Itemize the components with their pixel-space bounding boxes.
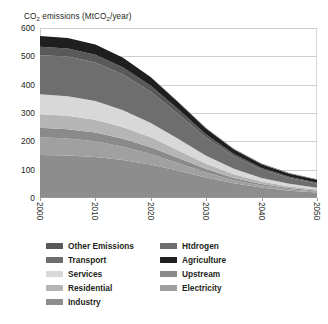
legend-item[interactable]: Residential xyxy=(46,282,134,294)
chart-legend: Other EmissionsTransportServicesResident… xyxy=(46,240,286,308)
x-axis-tick-label: 2030 xyxy=(201,202,210,220)
legend-item[interactable]: Electricity xyxy=(160,282,226,294)
legend-item[interactable]: Transport xyxy=(46,254,134,266)
x-axis-tick-mark xyxy=(262,198,263,201)
legend-label: Electricity xyxy=(182,284,222,292)
legend-swatch-icon xyxy=(46,243,63,249)
legend-swatch-icon xyxy=(160,271,177,277)
x-axis-tick-mark xyxy=(317,198,318,201)
legend-label: Other Emissions xyxy=(68,242,134,250)
legend-item[interactable]: Industry xyxy=(46,296,134,308)
chart-title-text: CO xyxy=(24,12,36,21)
legend-swatch-icon xyxy=(46,299,63,305)
legend-label: Htdrogen xyxy=(182,242,219,250)
legend-swatch-icon xyxy=(160,257,177,263)
y-axis-tick-label: 200 xyxy=(21,136,35,146)
x-axis-tick-label: 2010 xyxy=(90,202,99,220)
legend-item[interactable]: Services xyxy=(46,268,134,280)
chart-title-sub-2: 2 xyxy=(107,16,110,22)
chart-title: CO2 emissions (MtCO2/year) xyxy=(24,12,132,21)
y-axis-tick-label: 500 xyxy=(21,51,35,61)
legend-item[interactable]: Agriculture xyxy=(160,254,226,266)
x-axis-tick-mark xyxy=(206,198,207,201)
x-axis-tick-mark xyxy=(40,198,41,201)
x-axis-line xyxy=(40,197,317,198)
legend-item[interactable]: Htdrogen xyxy=(160,240,226,252)
legend-swatch-icon xyxy=(46,285,63,291)
legend-label: Agriculture xyxy=(182,256,226,264)
legend-item[interactable]: Other Emissions xyxy=(46,240,134,252)
legend-item[interactable]: Upstream xyxy=(160,268,226,280)
legend-label: Services xyxy=(68,270,102,278)
area-series-svg xyxy=(40,28,317,198)
legend-label: Transport xyxy=(68,256,106,264)
x-axis-tick-label: 2050 xyxy=(312,202,321,220)
chart-title-mid: emissions (MtCO xyxy=(40,12,107,21)
x-axis-tick-mark xyxy=(95,198,96,201)
legend-column-left: Other EmissionsTransportServicesResident… xyxy=(46,240,134,308)
legend-swatch-icon xyxy=(160,285,177,291)
x-axis-tick-mark xyxy=(151,198,152,201)
legend-label: Upstream xyxy=(182,270,220,278)
chart-container: CO2 emissions (MtCO2/year) 0100200300400… xyxy=(0,0,328,324)
stacked-areas xyxy=(40,28,317,198)
plot-area: 0100200300400500600 20002010202020302040… xyxy=(40,28,317,198)
legend-swatch-icon xyxy=(46,257,63,263)
legend-label: Residential xyxy=(68,284,112,292)
legend-column-right: HtdrogenAgricultureUpstreamElectricity xyxy=(160,240,226,308)
y-axis-tick-label: 300 xyxy=(21,108,35,118)
chart-title-sub-1: 2 xyxy=(36,16,39,22)
legend-swatch-icon xyxy=(46,271,63,277)
y-axis-tick-label: 100 xyxy=(21,165,35,175)
chart-title-end: /year) xyxy=(110,12,132,21)
legend-swatch-icon xyxy=(160,243,177,249)
y-axis-tick-label: 400 xyxy=(21,80,35,90)
y-axis-tick-label: 600 xyxy=(21,23,35,33)
legend-label: Industry xyxy=(68,298,101,306)
x-axis-tick-label: 2000 xyxy=(35,202,44,220)
x-axis-tick-label: 2040 xyxy=(257,202,266,220)
x-axis-tick-label: 2020 xyxy=(146,202,155,220)
